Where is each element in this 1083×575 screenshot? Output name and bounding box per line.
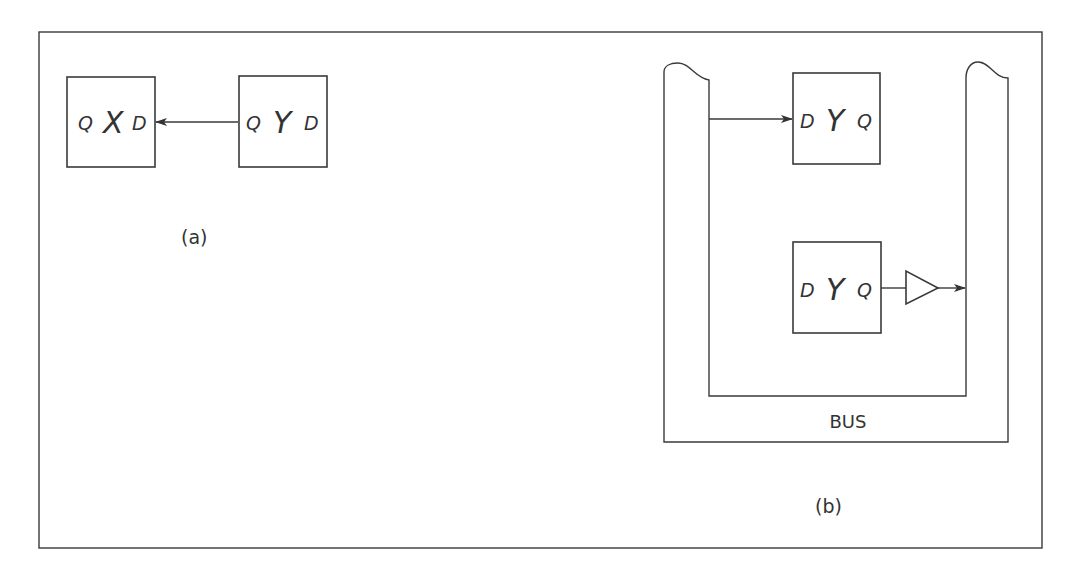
figure-frame	[39, 32, 1042, 548]
register-y-bottom-d-pin: D	[800, 279, 815, 301]
register-x: Q X D	[67, 77, 155, 167]
register-x-q-pin: Q	[78, 112, 93, 134]
diagram-canvas: Q X D Q Y D (a) D Y Q D Y Q	[0, 0, 1083, 575]
register-y-top-d-pin: D	[800, 110, 815, 132]
caption-b: (b)	[815, 495, 842, 517]
register-y-q-pin: Q	[246, 112, 261, 134]
register-x-d-pin: D	[132, 112, 147, 134]
register-y-top-q-pin: Q	[857, 110, 872, 132]
bus-label: BUS	[830, 411, 867, 432]
caption-a: (a)	[181, 226, 207, 248]
buffer-triangle-icon	[906, 271, 938, 304]
part-b: D Y Q D Y Q BUS (b)	[664, 62, 1008, 517]
register-y-d-pin: D	[304, 112, 319, 134]
register-y-top-name: Y	[826, 103, 847, 138]
register-y-name: Y	[273, 105, 294, 140]
register-y-top: D Y Q	[793, 73, 880, 164]
register-y-bottom-q-pin: Q	[857, 279, 872, 301]
register-y: Q Y D	[239, 76, 327, 167]
register-y-bottom: D Y Q	[793, 242, 881, 333]
register-y-bottom-name: Y	[826, 272, 847, 307]
register-x-name: X	[101, 105, 125, 140]
part-a: Q X D Q Y D (a)	[67, 76, 327, 248]
